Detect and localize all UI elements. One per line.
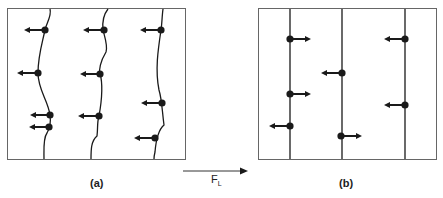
diagram-canvas [0, 0, 443, 198]
panel-b [259, 9, 437, 160]
pinning-sites-b [272, 35, 409, 139]
panel-a-label: (a) [90, 177, 103, 189]
panel-a [8, 9, 186, 160]
lorentz-force-label: FL [211, 173, 222, 187]
panel-b-label: (b) [339, 177, 353, 189]
force-symbol: F [211, 173, 218, 185]
force-subscript: L [218, 180, 222, 187]
